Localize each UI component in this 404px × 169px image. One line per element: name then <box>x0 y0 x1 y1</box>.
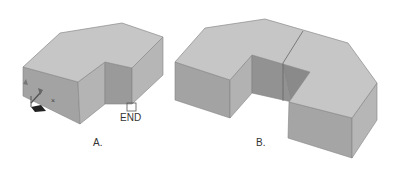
solid-b <box>175 19 377 158</box>
snap-marker-label: END <box>120 112 141 123</box>
solid-a-notch-face <box>105 62 132 104</box>
diagram-canvas: × <box>0 0 404 169</box>
panel-a-caption: A. <box>93 137 102 148</box>
ucs-x-axis-label: × <box>51 97 55 104</box>
panel-b-caption: B. <box>256 137 265 148</box>
